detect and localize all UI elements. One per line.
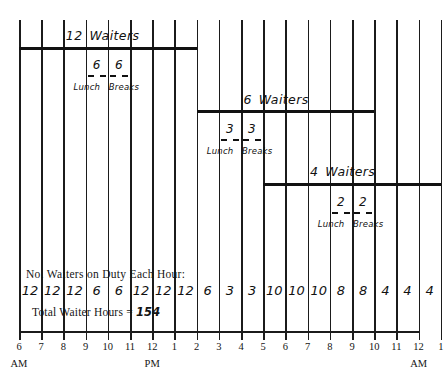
axis-tick-label: 10 [362, 341, 386, 352]
axis-tick-mark [19, 332, 21, 340]
duty-summary-title: No. Waiters on Duty Each Hour: [26, 268, 185, 280]
axis-tick-label: 9 [74, 341, 98, 352]
axis-tick-label: 3 [207, 341, 231, 352]
axis-tick-mark [352, 332, 354, 340]
axis-tick-label: 8 [318, 341, 342, 352]
lunch-break-bar-2b [243, 139, 261, 141]
lunch-break-bar-3a [332, 212, 350, 214]
axis-tick-mark [86, 332, 88, 340]
axis-tick-mark [219, 332, 221, 340]
hourly-waiter-count: 3 [219, 283, 241, 298]
axis-tick-label: 11 [118, 341, 142, 352]
lunch-break-text-right-2: Breaks [242, 146, 272, 156]
hourly-waiter-count: 6 [108, 283, 130, 298]
lunch-break-text-right-3: Breaks [353, 219, 383, 229]
axis-tick-label: 6 [7, 341, 31, 352]
hourly-waiter-count: 12 [19, 283, 41, 298]
axis-tick-mark [263, 332, 265, 340]
lunch-break-text-right-1: Breaks [109, 82, 139, 92]
hourly-waiter-count: 12 [174, 283, 196, 298]
axis-tick-label: 2 [185, 341, 209, 352]
lunch-break-count-2a: 3 [226, 122, 234, 136]
lunch-break-count-3b: 2 [359, 195, 367, 209]
lunch-break-bar-3b [354, 212, 372, 214]
shift-word-1: Waiters [90, 28, 140, 43]
lunch-break-bar-1a [88, 75, 106, 77]
lunch-break-bar-1b [110, 75, 128, 77]
hourly-waiter-count: 6 [86, 283, 108, 298]
axis-tick-mark [63, 332, 65, 340]
axis-meridiem-label: PM [137, 358, 167, 369]
axis-tick-label: 5 [251, 341, 275, 352]
axis-tick-mark [285, 332, 287, 340]
axis-tick-mark [330, 332, 332, 340]
shift-word-2: Waiters [259, 92, 309, 107]
axis-tick-mark [308, 332, 310, 340]
axis-tick-label: 1 [162, 341, 186, 352]
shift-bar-2 [197, 110, 375, 113]
axis-tick-label: 6 [273, 341, 297, 352]
lunch-break-text-left-2: Lunch [207, 146, 234, 156]
hourly-waiter-count: 4 [419, 283, 441, 298]
hourly-waiter-count: 8 [352, 283, 374, 298]
hourly-waiter-count: 12 [41, 283, 63, 298]
axis-tick-mark [130, 332, 132, 340]
hourly-waiter-count: 12 [63, 283, 85, 298]
lunch-break-count-2b: 3 [248, 122, 256, 136]
total-value: 154 [136, 305, 161, 319]
shift-label-2: 6Waiters [243, 92, 308, 107]
hourly-waiter-count: 10 [285, 283, 307, 298]
axis-tick-mark [241, 332, 243, 340]
lunch-break-text-left-1: Lunch [74, 82, 101, 92]
hourly-waiter-count: 4 [374, 283, 396, 298]
axis-tick-label: 8 [51, 341, 75, 352]
hour-gridline [441, 20, 443, 332]
axis-tick-label: 12 [140, 341, 164, 352]
axis-meridiem-label: AM [4, 358, 34, 369]
axis-tick-label: 10 [96, 341, 120, 352]
axis-tick-label: 9 [340, 341, 364, 352]
hourly-waiter-count: 10 [308, 283, 330, 298]
total-label: Total Waiter Hours = [32, 306, 133, 318]
hourly-waiter-count: 4 [396, 283, 418, 298]
hourly-waiter-count: 8 [330, 283, 352, 298]
axis-tick-mark [441, 332, 443, 340]
hourly-waiter-count: 12 [130, 283, 152, 298]
axis-meridiem-label: AM [404, 358, 434, 369]
lunch-break-count-1a: 6 [93, 58, 101, 72]
total-waiter-hours: Total Waiter Hours = 154 [32, 305, 161, 319]
axis-tick-label: 4 [229, 341, 253, 352]
shift-label-1: 12Waiters [66, 28, 140, 43]
lunch-break-count-1b: 6 [115, 58, 123, 72]
lunch-break-bar-2a [221, 139, 239, 141]
hourly-waiter-count: 3 [241, 283, 263, 298]
axis-tick-mark [108, 332, 110, 340]
shift-bar-1 [19, 47, 197, 50]
hourly-waiter-count: 12 [152, 283, 174, 298]
axis-tick-label: 12 [407, 341, 431, 352]
axis-tick-mark [197, 332, 199, 340]
axis-tick-mark [396, 332, 398, 340]
axis-tick-label: 1 [429, 341, 448, 352]
axis-tick-mark [374, 332, 376, 340]
shift-count-3: 4 [310, 164, 325, 179]
shift-label-3: 4Waiters [310, 164, 375, 179]
hourly-waiter-count: 10 [263, 283, 285, 298]
lunch-break-count-3a: 2 [337, 195, 345, 209]
shift-bar-3 [263, 183, 441, 186]
axis-tick-mark [419, 332, 421, 340]
shift-count-1: 12 [66, 28, 90, 43]
axis-tick-mark [152, 332, 154, 340]
lunch-break-text-left-3: Lunch [318, 219, 345, 229]
axis-tick-label: 7 [296, 341, 320, 352]
axis-tick-label: 11 [384, 341, 408, 352]
shift-count-2: 6 [243, 92, 258, 107]
axis-tick-label: 7 [29, 341, 53, 352]
axis-tick-mark [41, 332, 43, 340]
axis-tick-mark [174, 332, 176, 340]
hourly-waiter-count: 6 [197, 283, 219, 298]
shift-word-3: Waiters [325, 164, 375, 179]
